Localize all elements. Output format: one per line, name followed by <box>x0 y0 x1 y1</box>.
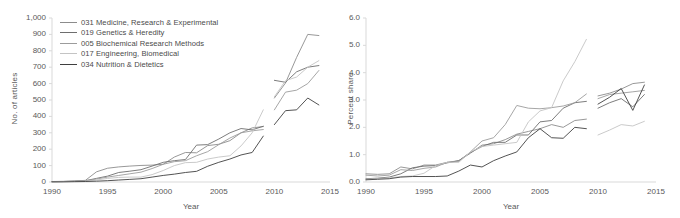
legend-swatch-line-icon <box>60 53 77 54</box>
legend-swatch-line-icon <box>60 32 77 33</box>
legend-item[interactable]: 019 Genetics & Heredity <box>60 28 218 39</box>
series-line <box>274 98 318 125</box>
series-line <box>366 39 586 179</box>
legend-swatch-line-icon <box>60 22 77 23</box>
series-line <box>366 94 586 176</box>
share-plot-area <box>340 0 680 218</box>
series-line <box>52 136 263 182</box>
legend-item-label: 031 Medicine, Research & Experimental <box>81 18 218 27</box>
share-panel: Percent share Year 0.01.02.03.04.05.06.0… <box>340 0 680 218</box>
series-line <box>598 85 644 110</box>
legend-item-label: 019 Genetics & Heredity <box>81 28 164 37</box>
chart-legend: 031 Medicine, Research & Experimental019… <box>60 17 218 70</box>
legend-item[interactable]: 031 Medicine, Research & Experimental <box>60 17 218 28</box>
legend-swatch-line-icon <box>60 43 77 44</box>
series-line <box>52 130 263 182</box>
legend-swatch-line-icon <box>60 64 77 65</box>
legend-item-label: 017 Engineering, Biomedical <box>81 49 179 58</box>
legend-item[interactable]: 005 Biochemical Research Methods <box>60 38 218 49</box>
series-line <box>366 101 586 178</box>
series-line <box>274 70 318 109</box>
legend-item[interactable]: 017 Engineering, Biomedical <box>60 49 218 60</box>
legend-item-label: 034 Nutrition & Dietetics <box>81 60 164 69</box>
legend-item-label: 005 Biochemical Research Methods <box>81 39 204 48</box>
legend-item[interactable]: 034 Nutrition & Dietetics <box>60 59 218 70</box>
figure-two-line-charts: No. of articles Year 0100200300400500600… <box>0 0 680 218</box>
series-line <box>366 127 586 179</box>
articles-panel: No. of articles Year 0100200300400500600… <box>0 0 340 218</box>
series-line <box>598 121 644 135</box>
series-line <box>52 110 263 182</box>
series-line <box>274 66 318 83</box>
